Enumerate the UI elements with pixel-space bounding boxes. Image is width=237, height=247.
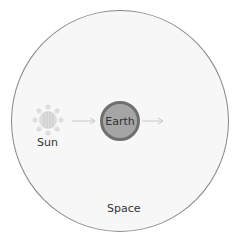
- arrow-earth-outward-icon: [142, 116, 166, 126]
- space-label: Space: [107, 202, 141, 215]
- sun-label: Sun: [37, 136, 58, 149]
- earth: Earth: [100, 101, 140, 141]
- arrow-sun-to-earth-icon: [72, 116, 98, 126]
- earth-label: Earth: [105, 115, 135, 128]
- sun-icon: [32, 104, 64, 136]
